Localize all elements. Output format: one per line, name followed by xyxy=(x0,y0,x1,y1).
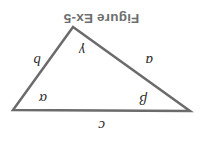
angle-label-gamma: γ xyxy=(79,43,85,58)
side-label-a: a xyxy=(146,53,154,68)
figure-screenshot: a b c α β γ Figure Ex-5 xyxy=(0,0,203,168)
figure-caption: Figure Ex-5 xyxy=(0,11,203,26)
side-label-c: c xyxy=(98,118,105,133)
angle-label-alpha: α xyxy=(39,91,47,106)
angle-label-beta: β xyxy=(140,92,147,107)
rotated-figure-container: a b c α β γ Figure Ex-5 xyxy=(0,0,203,168)
side-label-b: b xyxy=(34,53,42,68)
